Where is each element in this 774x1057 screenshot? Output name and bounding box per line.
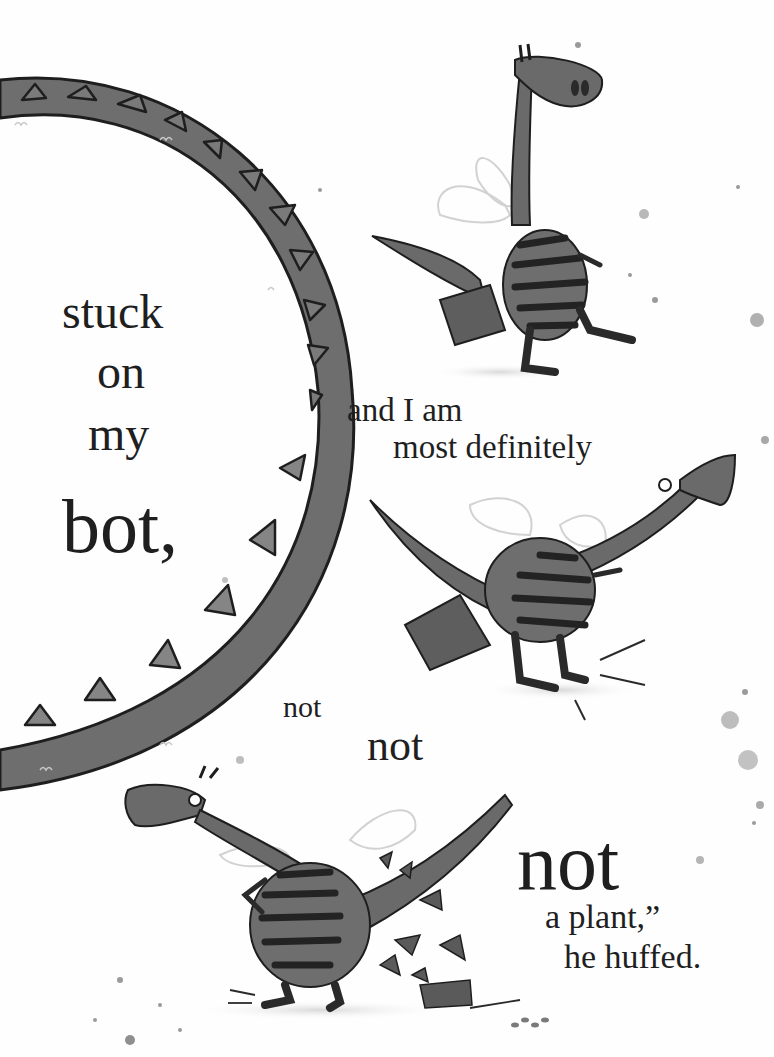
dragon-hopping [372,44,632,380]
text-he-huffed: he huffed. [564,940,701,974]
text-not-small: not [283,692,321,722]
text-not-large: not [517,822,619,902]
dragon-leaning [370,455,735,720]
leaf-sprig-decoration [511,1018,549,1028]
book-page: stuck on my bot, and I am most definitel… [0,0,774,1057]
text-my: my [88,410,149,458]
text-and-i-am: and I am [347,394,462,427]
text-bot: bot, [62,488,178,564]
text-not-medium: not [367,724,423,768]
text-a-plant: a plant,” [545,900,660,934]
text-stuck: stuck [62,288,163,336]
text-on: on [97,348,145,396]
text-most-definitely: most definitely [393,431,592,464]
dragon-tail-arc [0,78,354,790]
dragon-pot-broken [125,766,520,1020]
